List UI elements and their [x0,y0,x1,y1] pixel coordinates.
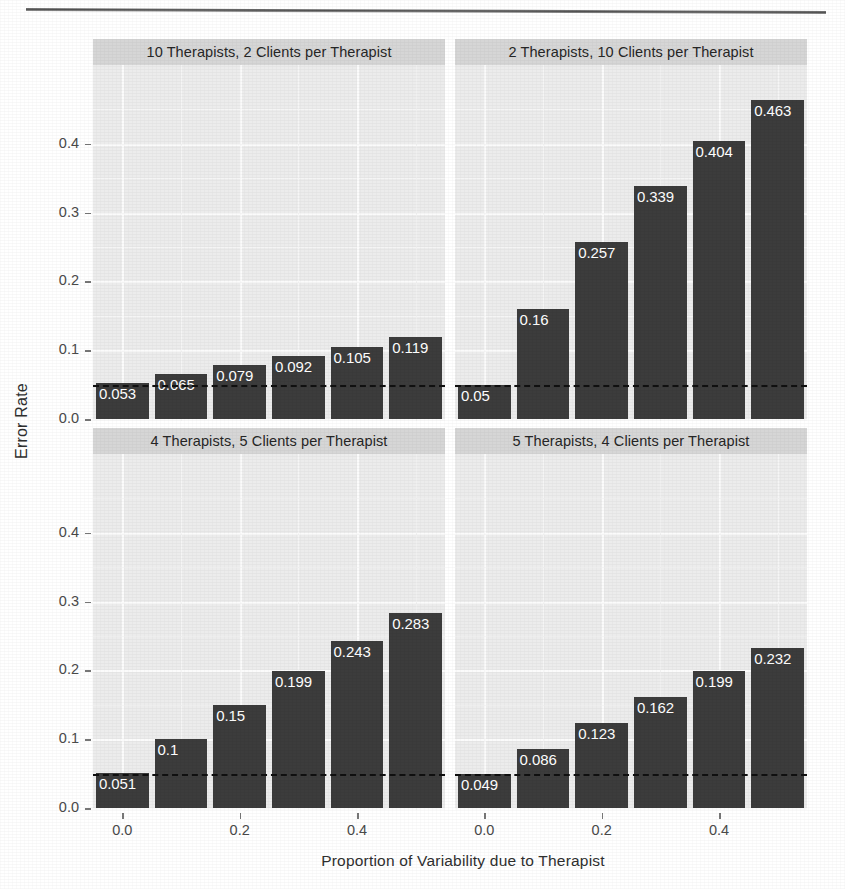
bar-value-label: 0.257 [578,244,615,261]
y-tick-label: 0.4 [35,524,79,540]
bar [575,242,628,419]
gridline-minor-y [93,178,445,179]
gridline-major-y [93,281,445,283]
bar [751,648,804,808]
bar-value-label: 0.051 [99,775,136,792]
gridline-major-x [484,65,486,421]
y-tick-mark [85,419,91,421]
bar [751,100,804,419]
y-tick-mark [85,144,91,146]
y-tick-label: 0.3 [35,593,79,609]
gridline-major-y [455,602,807,604]
x-tick-label: 0.0 [464,822,504,838]
gridline-major-y [455,419,807,421]
x-tick-label: 0.4 [699,822,739,838]
gridline-major-y [93,144,445,146]
facet-strip-label: 10 Therapists, 2 Clients per Therapist [93,39,445,65]
x-tick-label: 0.2 [220,822,260,838]
gridline-major-y [455,533,807,535]
y-tick-label: 0.2 [35,661,79,677]
y-axis-title: Error Rate [13,311,31,531]
x-axis-title: Proportion of Variability due to Therapi… [93,852,833,870]
gridline-major-x [122,65,124,421]
reference-line [93,385,445,387]
bar-value-label: 0.199 [275,673,312,690]
bar-value-label: 0.119 [392,339,428,356]
facet-panel: 4 Therapists, 5 Clients per Therapist0.0… [93,428,445,810]
bar-value-label: 0.049 [461,776,498,793]
x-tick-mark [484,813,486,819]
x-tick-mark [719,813,721,819]
y-tick-mark [85,739,91,741]
y-tick-mark [85,281,91,283]
facet-strip-label: 4 Therapists, 5 Clients per Therapist [93,428,445,454]
gridline-minor-y [455,498,807,499]
bar-value-label: 0.15 [216,707,245,724]
reference-line [455,385,807,387]
bar-value-label: 0.053 [99,385,136,402]
gridline-minor-x [181,65,182,421]
gridline-major-y [93,533,445,535]
x-tick-mark [122,813,124,819]
y-tick-label: 0.0 [35,410,79,426]
bar-value-label: 0.283 [392,615,429,632]
gridline-major-x [484,454,486,810]
gridline-minor-y [93,316,445,317]
bar-value-label: 0.1 [158,741,179,758]
x-tick-label: 0.4 [337,822,377,838]
bar-value-label: 0.199 [696,673,733,690]
x-tick-mark [357,813,359,819]
x-tick-label: 0.0 [102,822,142,838]
bar-value-label: 0.404 [696,143,733,160]
y-tick-label: 0.1 [35,341,79,357]
bar [693,671,746,808]
bar-value-label: 0.243 [334,643,371,660]
bar-value-label: 0.339 [637,188,674,205]
bar-value-label: 0.162 [637,699,674,716]
faceted-bar-chart-figure: Error Rate Proportion of Variability due… [0,0,845,889]
gridline-major-y [93,419,445,421]
bar-value-label: 0.05 [461,387,490,404]
bar [389,613,442,808]
bar [693,141,746,419]
gridline-minor-y [455,567,807,568]
x-tick-mark [602,813,604,819]
plot-area: 0.050.160.2570.3390.4040.463 [455,65,807,421]
x-tick-label: 0.2 [582,822,622,838]
x-tick-mark [240,813,242,819]
y-tick-label: 0.4 [35,135,79,151]
y-tick-mark [85,602,91,604]
reference-line [93,774,445,776]
bar [331,641,384,808]
gridline-major-y [93,808,445,810]
y-tick-label: 0.2 [35,272,79,288]
facet-strip-label: 2 Therapists, 10 Clients per Therapist [455,39,807,65]
facet-strip-label: 5 Therapists, 4 Clients per Therapist [455,428,807,454]
gridline-minor-y [93,498,445,499]
gridline-minor-y [93,567,445,568]
gridline-minor-y [455,636,807,637]
bar-value-label: 0.463 [754,102,791,119]
y-tick-mark [85,808,91,810]
bar [272,671,325,808]
y-tick-mark [85,213,91,215]
plot-area: 0.0530.0650.0790.0920.1050.119 [93,65,445,421]
facet-panel: 10 Therapists, 2 Clients per Therapist0.… [93,39,445,421]
gridline-minor-y [93,109,445,110]
facet-panel: 5 Therapists, 4 Clients per Therapist0.0… [455,428,807,810]
gridline-minor-y [93,247,445,248]
bar-value-label: 0.105 [334,349,371,366]
y-tick-mark [85,670,91,672]
y-tick-mark [85,350,91,352]
facet-panel: 2 Therapists, 10 Clients per Therapist0.… [455,39,807,421]
bar-value-label: 0.092 [275,358,312,375]
gridline-major-x [122,454,124,810]
gridline-major-y [93,213,445,215]
y-tick-label: 0.0 [35,799,79,815]
y-tick-label: 0.3 [35,204,79,220]
y-tick-mark [85,533,91,535]
bar-value-label: 0.16 [520,311,549,328]
plot-area: 0.0490.0860.1230.1620.1990.232 [455,454,807,810]
y-tick-label: 0.1 [35,730,79,746]
bar-value-label: 0.232 [754,650,791,667]
